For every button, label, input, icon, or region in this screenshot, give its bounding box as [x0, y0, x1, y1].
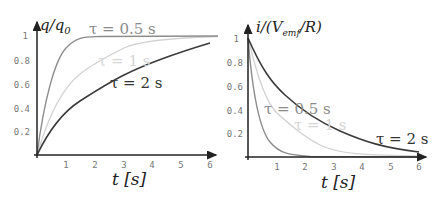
- left-xtick-1: 1: [63, 160, 68, 170]
- left-chart: q/q0 1 0.8 0.6 0.4 0.2 1 2 3 4 5 6 t [s]…: [14, 16, 218, 189]
- left-ytick-1: 1: [23, 31, 28, 41]
- right-ytick-0.4: 0.4: [227, 106, 243, 116]
- right-ytick-0.2: 0.2: [227, 129, 243, 139]
- left-y-label: q/q0: [40, 16, 71, 36]
- right-xtick-4: 4: [359, 162, 364, 172]
- right-xtick-1: 1: [274, 162, 279, 172]
- figure: q/q0 1 0.8 0.6 0.4 0.2 1 2 3 4 5 6 t [s]…: [0, 0, 439, 198]
- right-ytick-0.6: 0.6: [227, 82, 243, 92]
- left-ytick-0.8: 0.8: [14, 56, 30, 66]
- right-ytick-0.8: 0.8: [227, 58, 243, 68]
- left-ytick-0.4: 0.4: [14, 104, 30, 114]
- right-ytick-1: 1: [234, 34, 239, 44]
- right-x-label: t [s]: [321, 172, 356, 192]
- left-xtick-5: 5: [178, 160, 183, 170]
- left-x-label: t [s]: [112, 169, 147, 189]
- left-xtick-4: 4: [149, 160, 154, 170]
- left-xtick-2: 2: [92, 160, 97, 170]
- left-annotation-tau-0.5: τ = 0.5 s: [89, 20, 156, 38]
- right-xtick-5: 5: [388, 162, 393, 172]
- right-xtick-2: 2: [302, 162, 307, 172]
- right-annotation-tau-2: τ = 2 s: [376, 130, 428, 148]
- left-annotation-tau-1: τ = 1 s: [98, 52, 150, 70]
- left-xtick-6: 6: [207, 160, 212, 170]
- left-ytick-0.6: 0.6: [14, 80, 30, 90]
- left-ytick-0.2: 0.2: [14, 127, 30, 137]
- left-annotation-tau-2: τ = 2 s: [110, 74, 162, 92]
- right-xtick-3: 3: [331, 162, 336, 172]
- right-y-label: i/(Vemf/R): [256, 18, 322, 38]
- right-annotation-tau-1: τ = 1 s: [294, 116, 346, 134]
- right-chart: i/(Vemf/R) 1 0.8 0.6 0.4 0.2 1 2 3 4 5 6…: [227, 18, 429, 192]
- right-xtick-6: 6: [416, 162, 421, 172]
